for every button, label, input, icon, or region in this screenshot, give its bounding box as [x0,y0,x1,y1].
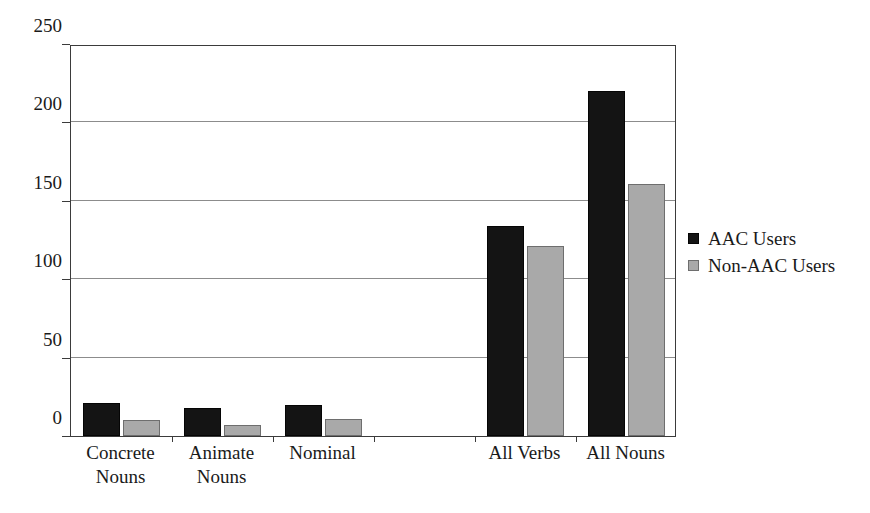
y-tick-mark [62,279,70,280]
gridline [71,278,675,279]
y-tick-label: 250 [10,16,62,35]
gridline [71,357,675,358]
x-category-label: All Nouns [563,441,688,465]
legend-label: AAC Users [708,228,796,249]
y-tick-mark [62,44,70,45]
black-square-swatch [688,233,699,244]
y-tick-label: 50 [10,330,62,349]
x-category-label-line1: All Nouns [586,442,665,463]
legend-label: Non-AAC Users [708,255,835,276]
chart-legend: AAC UsersNon-AAC Users [688,225,863,279]
bar-nominal-non-aac-users [325,419,362,436]
gridline [71,121,675,122]
bar-chart-figure: 050100150200250 ConcreteNounsAnimateNoun… [0,0,870,513]
bar-animate-nouns-non-aac-users [224,425,261,436]
y-tick-label: 200 [10,94,62,113]
x-axis: ConcreteNounsAnimateNounsNominalAll Verb… [70,441,676,509]
x-category-label-line1: Concrete [86,442,155,463]
y-tick-mark [62,358,70,359]
bar-all-nouns-aac-users [588,91,625,436]
y-tick-label: 100 [10,251,62,270]
y-tick-mark [62,122,70,123]
x-category-label-line1: Animate [189,442,254,463]
bar-concrete-nouns-non-aac-users [123,420,160,436]
gridline [71,200,675,201]
x-category-label: Nominal [260,441,385,465]
y-axis: 050100150200250 [0,45,62,437]
y-tick-label: 0 [10,408,62,427]
x-category-label-line1: Nominal [289,442,356,463]
plot-area [70,45,676,437]
bar-animate-nouns-aac-users [184,408,221,436]
legend-item: Non-AAC Users [688,252,863,279]
x-category-label-line2: Nouns [159,465,284,489]
x-category-label-line1: All Verbs [489,442,561,463]
legend-item: AAC Users [688,225,863,252]
y-tick-mark [62,201,70,202]
bar-all-nouns-non-aac-users [628,184,665,436]
bar-all-verbs-aac-users [487,226,524,436]
gray-square-swatch [688,260,699,271]
y-tick-label: 150 [10,173,62,192]
y-tick-mark [62,436,70,437]
bar-all-verbs-non-aac-users [527,246,564,436]
bar-nominal-aac-users [285,405,322,436]
bar-concrete-nouns-aac-users [83,403,120,436]
